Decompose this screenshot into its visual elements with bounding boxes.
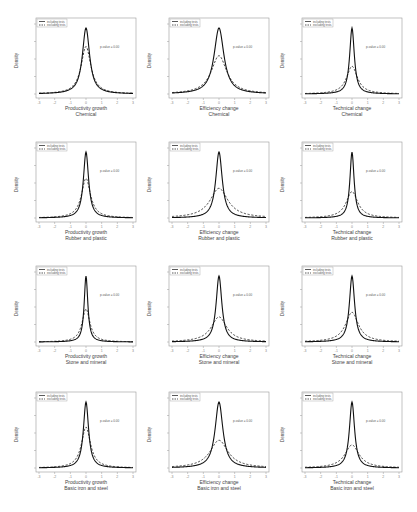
svg-text:-2: -2	[319, 475, 322, 479]
plot-area: -3-2-10123including testsexcluding tests…	[145, 380, 273, 480]
svg-text:2: 2	[116, 101, 118, 105]
plot-area: -3-2-10123including testsexcluding tests…	[278, 6, 406, 106]
svg-text:-3: -3	[37, 225, 40, 229]
svg-text:3: 3	[398, 225, 400, 229]
plot-area: -3-2-10123including testsexcluding tests…	[145, 130, 273, 230]
excluding-tests-curve	[172, 317, 266, 341]
svg-text:2: 2	[116, 225, 118, 229]
y-axis-label: Density	[280, 177, 285, 192]
svg-text:2: 2	[249, 475, 251, 479]
x-axis-label: Productivity growthChemical	[36, 106, 136, 117]
svg-text:3: 3	[265, 225, 267, 229]
y-axis-label: Density	[147, 427, 152, 442]
legend-label: excluding tests	[180, 147, 199, 151]
svg-text:-2: -2	[186, 349, 189, 353]
including-tests-curve	[172, 152, 266, 218]
excluding-tests-curve	[39, 178, 133, 217]
svg-text:3: 3	[398, 101, 400, 105]
legend-label: excluding tests	[313, 397, 332, 401]
svg-text:2: 2	[249, 349, 251, 353]
svg-text:2: 2	[249, 225, 251, 229]
svg-text:3: 3	[265, 349, 267, 353]
density-panel: -3-2-10123including testsexcluding tests…	[12, 6, 140, 128]
svg-text:3: 3	[265, 101, 267, 105]
density-panel: -3-2-10123including testsexcluding tests…	[278, 254, 406, 376]
svg-text:2: 2	[382, 475, 384, 479]
density-panel: -3-2-10123including testsexcluding tests…	[145, 380, 273, 502]
including-tests-curve	[39, 28, 133, 93]
svg-text:2: 2	[382, 101, 384, 105]
density-panel: -3-2-10123including testsexcluding tests…	[145, 130, 273, 252]
p-value-annotation: p-value = 0.00	[100, 45, 119, 49]
x-axis-label: Technical changeStone and mineral	[302, 354, 402, 365]
svg-text:-2: -2	[186, 225, 189, 229]
y-axis-label: Density	[14, 427, 19, 442]
x-axis-label: Technical changeBasic iron and steel	[302, 480, 402, 491]
x-axis-label: Efficiency changeRubber and plastic	[169, 230, 269, 241]
excluding-tests-curve	[172, 56, 266, 93]
plot-area: -3-2-10123including testsexcluding tests…	[12, 6, 140, 106]
density-panel: -3-2-10123including testsexcluding tests…	[12, 130, 140, 252]
svg-text:3: 3	[398, 475, 400, 479]
including-tests-curve	[172, 28, 266, 93]
p-value-annotation: p-value = 0.00	[233, 169, 252, 173]
y-axis-label: Density	[280, 301, 285, 316]
plot-area: -3-2-10123including testsexcluding tests…	[12, 254, 140, 354]
svg-text:3: 3	[132, 225, 134, 229]
excluding-tests-curve	[305, 192, 399, 218]
plot-area: -3-2-10123including testsexcluding tests…	[278, 380, 406, 480]
y-axis-label: Density	[280, 427, 285, 442]
p-value-annotation: p-value = 0.00	[100, 293, 119, 297]
svg-text:-3: -3	[303, 101, 306, 105]
svg-text:3: 3	[132, 349, 134, 353]
svg-text:-2: -2	[53, 475, 56, 479]
x-axis-label: Productivity growthBasic iron and steel	[36, 480, 136, 491]
svg-text:-3: -3	[170, 349, 173, 353]
x-axis-label: Efficiency changeStone and mineral	[169, 354, 269, 365]
svg-text:-3: -3	[170, 475, 173, 479]
legend-label: excluding tests	[47, 23, 66, 27]
svg-text:3: 3	[398, 349, 400, 353]
x-axis-label: Technical changeRubber and plastic	[302, 230, 402, 241]
svg-text:2: 2	[116, 349, 118, 353]
excluding-tests-curve	[305, 445, 399, 467]
density-panel: -3-2-10123including testsexcluding tests…	[278, 6, 406, 128]
svg-text:-3: -3	[37, 101, 40, 105]
p-value-annotation: p-value = 0.00	[100, 169, 119, 173]
svg-text:-2: -2	[319, 349, 322, 353]
y-axis-label: Density	[147, 53, 152, 68]
density-panel: -3-2-10123including testsexcluding tests…	[12, 380, 140, 502]
legend-label: excluding tests	[313, 271, 332, 275]
svg-text:-2: -2	[186, 101, 189, 105]
plot-area: -3-2-10123including testsexcluding tests…	[278, 254, 406, 354]
p-value-annotation: p-value = 0.00	[366, 293, 385, 297]
excluding-tests-curve	[172, 188, 266, 216]
legend-label: excluding tests	[313, 147, 332, 151]
p-value-annotation: p-value = 0.00	[366, 169, 385, 173]
plot-area: -3-2-10123including testsexcluding tests…	[12, 130, 140, 230]
excluding-tests-curve	[305, 312, 399, 341]
svg-text:2: 2	[382, 225, 384, 229]
including-tests-curve	[172, 402, 266, 467]
svg-text:-2: -2	[53, 225, 56, 229]
svg-text:-3: -3	[303, 475, 306, 479]
density-panel: -3-2-10123including testsexcluding tests…	[12, 254, 140, 376]
y-axis-label: Density	[14, 301, 19, 316]
including-tests-curve	[305, 28, 399, 94]
p-value-annotation: p-value = 0.00	[233, 45, 252, 49]
svg-text:2: 2	[249, 101, 251, 105]
excluding-tests-curve	[305, 66, 399, 93]
plot-area: -3-2-10123including testsexcluding tests…	[278, 130, 406, 230]
legend-label: excluding tests	[180, 397, 199, 401]
svg-text:-3: -3	[170, 101, 173, 105]
p-value-annotation: p-value = 0.00	[233, 419, 252, 423]
y-axis-label: Density	[14, 177, 19, 192]
including-tests-curve	[39, 276, 133, 342]
svg-text:2: 2	[382, 349, 384, 353]
legend-label: excluding tests	[180, 23, 199, 27]
density-panel: -3-2-10123including testsexcluding tests…	[145, 6, 273, 128]
excluding-tests-curve	[39, 309, 133, 342]
svg-text:3: 3	[132, 101, 134, 105]
legend-label: excluding tests	[47, 147, 66, 151]
density-panel: -3-2-10123including testsexcluding tests…	[145, 254, 273, 376]
